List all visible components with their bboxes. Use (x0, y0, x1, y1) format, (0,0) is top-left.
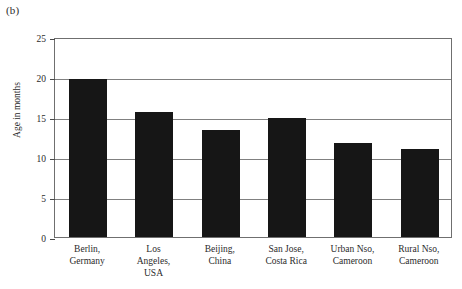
x-axis-label-line: San Jose, (253, 243, 319, 255)
bar-slot (320, 39, 386, 237)
x-axis-label-line: Beijing, (187, 243, 253, 255)
y-axis-tick-label: 0 (41, 234, 46, 244)
bar-slot (188, 39, 254, 237)
x-axis-label-line: Costa Rica (253, 255, 319, 267)
bar[interactable] (135, 112, 173, 237)
x-axis-label-line: China (187, 255, 253, 267)
x-axis-label-line: Rural Nso, (386, 243, 452, 255)
bar-series (55, 39, 451, 237)
x-axis-label-line: USA (120, 267, 186, 279)
x-axis-label-line: Urban Nso, (319, 243, 385, 255)
y-axis-title: Age in months (12, 60, 22, 160)
x-axis-label: LosAngeles,USA (120, 243, 186, 279)
x-axis-labels: Berlin,GermanyLosAngeles,USABeijing,Chin… (54, 243, 452, 287)
x-axis-label: Berlin,Germany (54, 243, 120, 267)
bar[interactable] (268, 118, 306, 237)
bar-slot (121, 39, 187, 237)
x-axis-label: San Jose,Costa Rica (253, 243, 319, 267)
x-axis-label-line: Cameroon (319, 255, 385, 267)
x-axis-label: Beijing,China (187, 243, 253, 267)
x-axis-label: Rural Nso,Cameroon (386, 243, 452, 267)
bar-slot (387, 39, 453, 237)
y-axis-tick-label: 15 (37, 114, 47, 124)
y-axis-tick-mark (50, 239, 55, 240)
y-axis-tick-label: 5 (41, 194, 46, 204)
x-axis-label-line: Cameroon (386, 255, 452, 267)
bar[interactable] (334, 143, 372, 237)
panel-label: (b) (6, 4, 19, 16)
x-axis-label: Urban Nso,Cameroon (319, 243, 385, 267)
plot-area: 0510152025 (54, 38, 452, 238)
figure: (b) Age in months 0510152025 Berlin,Germ… (0, 0, 462, 289)
bar-slot (55, 39, 121, 237)
y-axis-tick-label: 20 (37, 74, 47, 84)
y-axis-tick-label: 10 (37, 154, 47, 164)
x-axis-label-line: Angeles, (120, 255, 186, 267)
bar[interactable] (202, 130, 240, 237)
x-axis-label-line: Berlin, (54, 243, 120, 255)
bar[interactable] (401, 149, 439, 237)
bar-slot (254, 39, 320, 237)
x-axis-label-line: Germany (54, 255, 120, 267)
x-axis-label-line: Los (120, 243, 186, 255)
bar[interactable] (69, 79, 107, 237)
y-axis-tick-label: 25 (37, 34, 47, 44)
